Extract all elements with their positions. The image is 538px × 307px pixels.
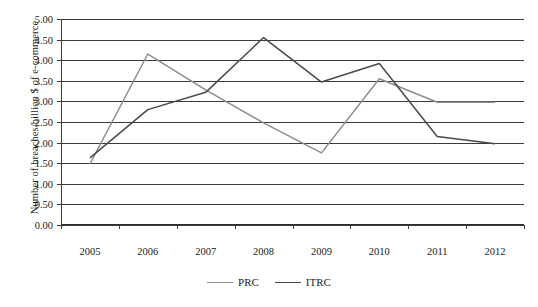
legend-label: ITRC [306,277,331,288]
legend-swatch-icon [275,282,301,283]
legend-swatch-icon [207,282,233,283]
x-axis-tick-label: 2006 [137,246,158,257]
x-axis-tick [235,225,236,229]
x-axis-tick-label: 2009 [311,246,332,257]
y-axis-tick-label: 1.00 [35,178,53,189]
y-axis-tick-label: 2.00 [35,137,53,148]
legend-label: PRC [238,277,259,288]
x-axis-tick [350,225,351,229]
x-axis-tick [177,225,178,229]
x-axis-tick [524,225,525,229]
series-lines [61,19,524,225]
x-axis-tick-label: 2008 [253,246,274,257]
chart-legend: PRCITRC [0,277,538,288]
x-axis-tick [61,225,62,229]
legend-item-prc[interactable]: PRC [207,277,259,288]
y-axis-tick-label: 5.00 [35,14,53,25]
x-axis-tick [466,225,467,229]
x-axis-tick-label: 2011 [427,246,448,257]
y-axis-tick-label: 3.50 [35,75,53,86]
x-axis-tick-label: 2007 [195,246,216,257]
line-chart: Number of breaches/billion $ of e-commer… [0,0,538,307]
x-axis-tick [293,225,294,229]
y-axis-tick-label: 0.00 [35,220,53,231]
y-axis-tick-label: 4.50 [35,34,53,45]
x-axis-tick-label: 2012 [485,246,506,257]
y-axis-tick-label: 3.00 [35,96,53,107]
y-axis-tick-label: 0.50 [35,199,53,210]
y-axis-tick-label: 2.50 [35,117,53,128]
legend-item-itrc[interactable]: ITRC [275,277,331,288]
y-axis-tick-label: 4.00 [35,55,53,66]
x-axis-tick-label: 2005 [79,246,100,257]
plot-area: 0.000.501.001.502.002.503.003.504.004.50… [61,19,524,225]
x-axis-tick [408,225,409,229]
x-axis-tick-label: 2010 [369,246,390,257]
x-axis-tick [119,225,120,229]
y-axis-tick-label: 1.50 [35,158,53,169]
